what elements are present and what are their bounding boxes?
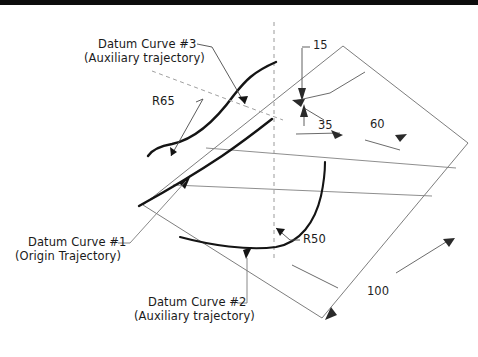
label-datum-curve-3-line1: Datum Curve #3 bbox=[98, 37, 197, 51]
construction-line-upper bbox=[206, 148, 456, 168]
dimension-60-arrowheads bbox=[292, 99, 407, 142]
dim-100-left-line bbox=[292, 265, 338, 288]
dim-label-15-text: 15 bbox=[313, 38, 328, 52]
dimension-100 bbox=[292, 242, 446, 288]
datum-curve-3-path bbox=[148, 62, 276, 156]
dimension-60 bbox=[294, 72, 400, 150]
dim-label-15: 15 bbox=[313, 39, 328, 52]
label-r65-text: R65 bbox=[152, 94, 175, 108]
label-datum-curve-2-line1: Datum Curve #2 bbox=[148, 295, 247, 309]
label-datum-curve-1: Datum Curve #1 bbox=[28, 236, 127, 250]
dim-60-upper-line-b bbox=[330, 72, 365, 93]
label-r50: R50 bbox=[303, 233, 326, 247]
plane-construction-lines bbox=[173, 148, 456, 196]
leader-r65 bbox=[171, 99, 203, 156]
leader-datum-curve-1 bbox=[118, 181, 186, 243]
dim-label-35: 35 bbox=[318, 119, 333, 132]
dimension-100-arrowheads bbox=[325, 238, 455, 320]
leader-r65-arrowhead bbox=[170, 147, 177, 156]
dim-label-35-text: 35 bbox=[318, 118, 333, 132]
label-datum-curve-1-sub: (Origin Trajectory) bbox=[15, 250, 121, 264]
label-datum-curve-1-line1: Datum Curve #1 bbox=[28, 235, 127, 249]
leader-datum-curve-3-arrowhead bbox=[238, 96, 248, 104]
plane-edge-top-right bbox=[343, 46, 468, 143]
dim-label-60: 60 bbox=[370, 118, 385, 131]
label-datum-curve-3: Datum Curve #3 bbox=[98, 38, 197, 52]
label-datum-curve-3-line2: (Auxiliary trajectory) bbox=[84, 51, 205, 65]
label-datum-curve-1-line2: (Origin Trajectory) bbox=[15, 249, 121, 263]
label-datum-curve-3-sub: (Auxiliary trajectory) bbox=[84, 52, 205, 66]
dim-100-right-line bbox=[396, 242, 446, 273]
plane-edge-top-left bbox=[143, 46, 343, 205]
construction-line-mid bbox=[173, 185, 432, 196]
drawing-canvas: Datum Curve #3 (Auxiliary trajectory) R6… bbox=[0, 0, 478, 357]
label-datum-curve-2-sub: (Auxiliary trajectory) bbox=[134, 310, 255, 324]
label-r65: R65 bbox=[152, 95, 175, 109]
label-datum-curve-2-line2: (Auxiliary trajectory) bbox=[134, 309, 255, 323]
dim-60-right-line bbox=[365, 140, 400, 150]
dim-label-100-text: 100 bbox=[367, 284, 389, 298]
dim-label-100: 100 bbox=[367, 285, 389, 298]
sketch-plane-parallelogram bbox=[143, 46, 468, 318]
dim-label-60-text: 60 bbox=[370, 117, 385, 131]
label-r50-text: R50 bbox=[303, 232, 326, 246]
datum-curve-1-path bbox=[139, 119, 272, 206]
label-datum-curve-2: Datum Curve #2 bbox=[148, 296, 247, 310]
plane-edge-bottom-right bbox=[322, 143, 468, 318]
